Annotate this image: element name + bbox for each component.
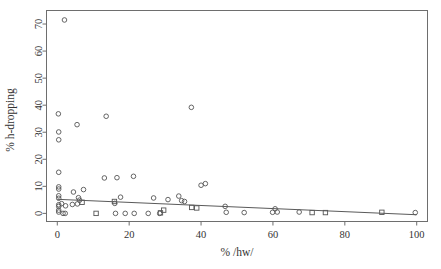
chart-canvas: 010203040506070 020406080100 % /hw/ % h-… xyxy=(0,0,441,269)
y-tick-label: 70 xyxy=(33,19,44,30)
x-axis-label: % /hw/ xyxy=(221,246,255,258)
y-tick-label: 0 xyxy=(33,211,44,216)
x-tick-label: 80 xyxy=(340,229,351,240)
x-tick-label: 20 xyxy=(124,229,135,240)
x-tick-label: 0 xyxy=(55,229,60,240)
y-tick-label: 60 xyxy=(33,46,44,57)
x-tick-label: 60 xyxy=(268,229,279,240)
y-tick-label: 50 xyxy=(33,73,44,84)
y-tick-label: 20 xyxy=(33,154,44,165)
x-tick-label: 100 xyxy=(409,229,425,240)
figure-background xyxy=(0,0,441,269)
x-tick-label: 40 xyxy=(196,229,207,240)
scatter-plot-figure: 010203040506070 020406080100 % /hw/ % h-… xyxy=(0,0,441,269)
y-tick-label: 40 xyxy=(33,100,44,111)
y-tick-label: 30 xyxy=(33,127,44,138)
y-tick-label: 10 xyxy=(33,181,44,192)
y-axis-label: % h-dropping xyxy=(4,88,17,152)
